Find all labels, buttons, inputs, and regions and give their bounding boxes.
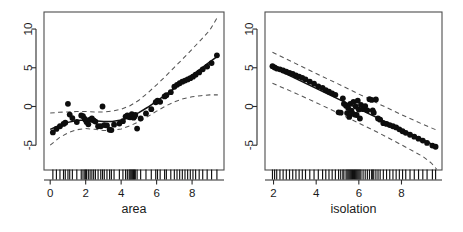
plot-area-svg: 02468-50510area [0,0,232,232]
panel-isolation: 2468-50510isolation [231,0,463,232]
y-tick-label: 0 [22,103,34,109]
x-tick-label: 2 [270,187,276,199]
y-tick-label: 10 [22,23,34,36]
scatter-points [50,52,220,135]
scatter-points [270,63,439,149]
y-tick-label: 10 [243,23,255,36]
x-tick-label: 8 [189,187,195,199]
figure-container: 02468-50510area 2468-50510isolation [0,0,463,232]
x-tick-label: 2 [82,187,88,199]
x-tick-label: 6 [153,187,159,199]
x-axis-title: isolation [331,202,377,216]
x-tick-label: 8 [398,187,404,199]
rug-marks [53,170,217,180]
y-tick-label: -5 [243,140,255,150]
plot-isolation-svg: 2468-50510isolation [231,0,463,232]
x-tick-label: 4 [313,187,320,199]
panel-area: 02468-50510area [0,0,232,232]
y-tick-label: 5 [243,65,255,71]
x-axis-title: area [121,202,146,216]
y-tick-label: 5 [22,65,34,71]
y-tick-label: -5 [22,140,34,150]
x-tick-label: 4 [118,187,125,199]
rug-marks [272,170,435,180]
x-tick-label: 0 [47,187,53,199]
x-tick-label: 6 [356,187,362,199]
y-tick-label: 0 [243,103,255,109]
